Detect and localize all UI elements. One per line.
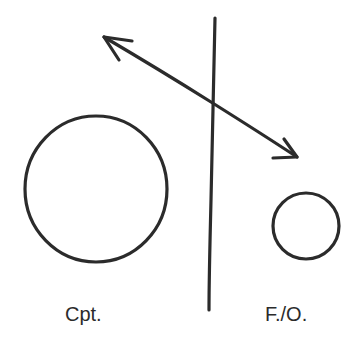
diagram-canvas bbox=[0, 0, 356, 355]
first-officer-circle bbox=[273, 193, 339, 259]
captain-circle bbox=[25, 116, 167, 262]
captain-label: Cpt. bbox=[65, 304, 102, 324]
first-officer-label: F./O. bbox=[265, 304, 307, 324]
divider-line bbox=[209, 18, 215, 310]
double-arrow-shaft bbox=[104, 37, 297, 157]
